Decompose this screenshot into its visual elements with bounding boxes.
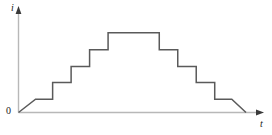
x-axis-arrow-icon <box>256 110 264 116</box>
origin-label: 0 <box>6 106 11 116</box>
y-axis-arrow-icon <box>16 6 22 14</box>
x-axis-label: t <box>260 119 263 129</box>
waveform-curve <box>19 33 247 113</box>
current-vs-time-figure: 0 i t <box>0 0 272 135</box>
waveform-plot <box>0 0 272 135</box>
y-axis-label: i <box>11 3 14 13</box>
